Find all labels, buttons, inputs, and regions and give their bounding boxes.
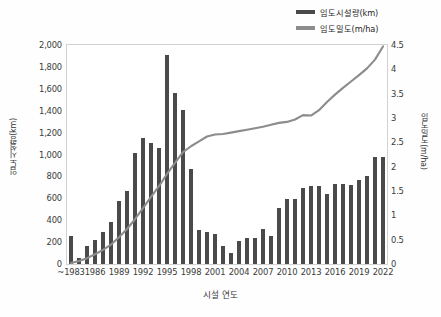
x-tick-2019: 2019	[349, 267, 370, 277]
plot-area	[66, 44, 388, 265]
chart-container: 임도시설량(km) 임도밀도(m/ha) 02004006008001,0001…	[0, 0, 441, 317]
x-tick-2016: 2016	[325, 267, 346, 277]
line-series-layer	[67, 45, 387, 264]
x-axis-title: 시설 연도	[0, 288, 441, 300]
y-right-tick-3-5: 3.5	[391, 89, 404, 99]
x-tick-1983: ~1983	[57, 267, 84, 277]
x-tick-2001: 2001	[205, 267, 226, 277]
y-left-tick-2000: 2,000	[39, 40, 62, 50]
legend-label-line: 임도밀도(m/ha)	[320, 22, 378, 34]
y-left-tick-1200: 1,200	[39, 128, 62, 138]
x-tick-2007: 2007	[253, 267, 274, 277]
y-left-tick-400: 400	[47, 215, 62, 225]
legend-swatch-bar	[296, 10, 315, 14]
x-tick-1992: 1992	[133, 267, 154, 277]
y-left-tick-1000: 1,000	[39, 150, 62, 160]
x-tick-1995: 1995	[157, 267, 178, 277]
y-left-tick-200: 200	[47, 237, 62, 247]
x-tick-2004: 2004	[229, 267, 250, 277]
y-left-tick-1600: 1,600	[39, 84, 62, 94]
y-left-tick-1800: 1,800	[39, 62, 62, 72]
x-tick-2010: 2010	[277, 267, 298, 277]
y-right-tick-4: 4	[391, 64, 396, 74]
x-tick-1986: 1986	[85, 267, 106, 277]
x-axis: ~198319861989199219951998200120042007201…	[66, 267, 388, 281]
y-axis-right-title: 임도밀도(m/ha)	[418, 113, 429, 170]
legend-item-bar-series: 임도시설량(km)	[296, 6, 378, 18]
y-right-tick-2: 2	[391, 162, 396, 172]
x-tick-2022: 2022	[373, 267, 394, 277]
legend-swatch-line	[296, 26, 315, 30]
x-tick-1998: 1998	[181, 267, 202, 277]
y-left-tick-600: 600	[47, 193, 62, 203]
legend-label-bar: 임도시설량(km)	[320, 6, 378, 18]
x-tick-2013: 2013	[301, 267, 322, 277]
y-left-tick-800: 800	[47, 171, 62, 181]
y-right-tick-1: 1	[391, 210, 396, 220]
density-line	[71, 46, 383, 263]
chart-legend: 임도시설량(km) 임도밀도(m/ha)	[296, 6, 378, 34]
y-left-tick-1400: 1,400	[39, 106, 62, 116]
x-tick-1989: 1989	[109, 267, 130, 277]
y-right-tick-1-5: 1.5	[391, 186, 404, 196]
y-axis-right: 00.511.522.533.544.5	[391, 44, 417, 265]
y-right-tick-2-5: 2.5	[391, 137, 404, 147]
y-axis-left-title: 임도시설량(km)	[8, 118, 19, 175]
legend-item-line-series: 임도밀도(m/ha)	[296, 22, 378, 34]
y-right-tick-0-5: 0.5	[391, 235, 404, 245]
y-axis-left: 02004006008001,0001,2001,4001,6001,8002,…	[14, 44, 62, 265]
y-right-tick-3: 3	[391, 113, 396, 123]
y-right-tick-4-5: 4.5	[391, 40, 404, 50]
